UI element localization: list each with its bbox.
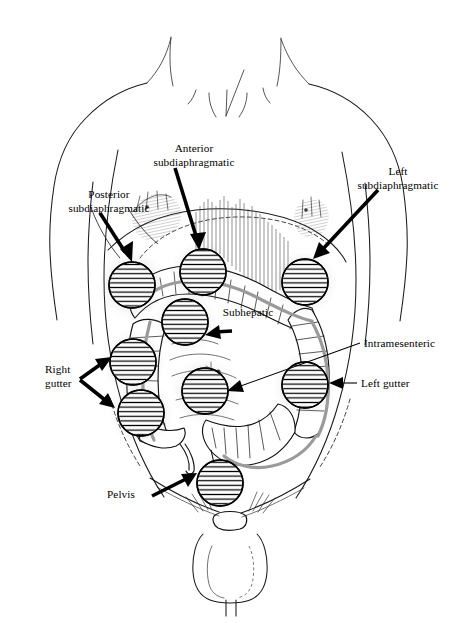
label-right-gutter: Right gutter bbox=[45, 363, 72, 389]
site-left-subdiaphragmatic[interactable] bbox=[282, 259, 328, 305]
anatomical-figure: Anterior subdiaphragmatic Left subdiaphr… bbox=[0, 0, 469, 623]
label-anterior-subdiaphragmatic-line1: Anterior bbox=[175, 142, 214, 154]
body-outline-group bbox=[50, 37, 408, 616]
site-posterior-subdiaphragmatic[interactable] bbox=[109, 262, 155, 308]
site-intramesenteric[interactable] bbox=[182, 368, 228, 414]
abscess-site-circles bbox=[109, 249, 328, 506]
neck-right-contour bbox=[277, 38, 281, 86]
peritoneal-spaces-diagram: Anterior subdiaphragmatic Left subdiaphr… bbox=[0, 0, 469, 623]
label-pelvis-line1: Pelvis bbox=[107, 488, 135, 500]
genitalia-inner-left bbox=[207, 546, 224, 598]
spleen-hilum-dot bbox=[304, 208, 308, 212]
inguinal-fold-right bbox=[241, 479, 310, 513]
label-left-subdiaphragmatic: Left subdiaphragmatic bbox=[357, 165, 438, 191]
inguinal-fold-right-inner bbox=[242, 488, 304, 517]
label-left-gutter: Left gutter bbox=[361, 377, 410, 389]
label-posterior-subdiaphragmatic-line2: subdiaphragmatic bbox=[68, 202, 149, 214]
clavicle-right-stub bbox=[263, 88, 270, 103]
suprasternal-notch-right bbox=[239, 93, 247, 117]
neck-left-scm bbox=[147, 38, 171, 83]
label-left-gutter-line1: Left gutter bbox=[361, 377, 410, 389]
label-subhepatic: Subhepatic bbox=[223, 306, 274, 318]
arm-right-inner bbox=[365, 183, 370, 345]
site-right-gutter-lower[interactable] bbox=[118, 390, 164, 436]
clavicle-left-stub bbox=[188, 90, 196, 104]
site-right-gutter-upper[interactable] bbox=[110, 339, 156, 385]
label-right-gutter-line1: Right bbox=[45, 363, 71, 375]
site-subhepatic[interactable] bbox=[162, 299, 208, 345]
label-pelvis: Pelvis bbox=[107, 488, 135, 500]
label-intramesenteric-line1: Intramesenteric bbox=[364, 337, 435, 349]
label-right-gutter-line2: gutter bbox=[45, 377, 72, 389]
label-subhepatic-line1: Subhepatic bbox=[223, 306, 274, 318]
genitalia-inner-right bbox=[237, 546, 254, 598]
neck-left-contour bbox=[170, 37, 173, 86]
label-left-subdiaphragmatic-line2: subdiaphragmatic bbox=[357, 179, 438, 191]
suprasternal-notch-left bbox=[209, 93, 216, 117]
label-posterior-subdiaphragmatic-line1: Posterior bbox=[88, 188, 129, 200]
site-pelvis[interactable] bbox=[197, 460, 243, 506]
site-anterior-subdiaphragmatic[interactable] bbox=[180, 249, 226, 295]
label-intramesenteric: Intramesenteric bbox=[364, 337, 435, 349]
sternal-notch-v bbox=[226, 70, 244, 116]
pubic-symphysis bbox=[213, 512, 247, 531]
label-anterior-subdiaphragmatic: Anterior subdiaphragmatic bbox=[153, 142, 234, 168]
neck-right-scm bbox=[281, 39, 309, 84]
label-anterior-subdiaphragmatic-line2: subdiaphragmatic bbox=[153, 156, 234, 168]
genitalia-outline bbox=[193, 534, 267, 603]
label-left-subdiaphragmatic-line1: Left bbox=[388, 165, 408, 177]
